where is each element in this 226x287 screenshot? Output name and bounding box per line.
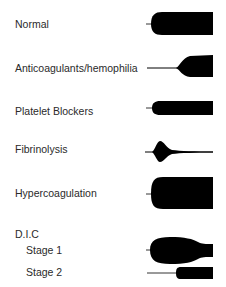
trace-normal bbox=[146, 12, 213, 35]
tracings bbox=[0, 0, 226, 287]
trace-platelet-blockers bbox=[146, 101, 213, 115]
trace-fibrinolysis bbox=[145, 141, 213, 162]
trace-hypercoagulation bbox=[146, 177, 213, 209]
trace-anticoagulants bbox=[147, 55, 213, 77]
trace-dic-stage-2 bbox=[147, 267, 213, 279]
trace-dic-stage-1 bbox=[146, 237, 213, 264]
